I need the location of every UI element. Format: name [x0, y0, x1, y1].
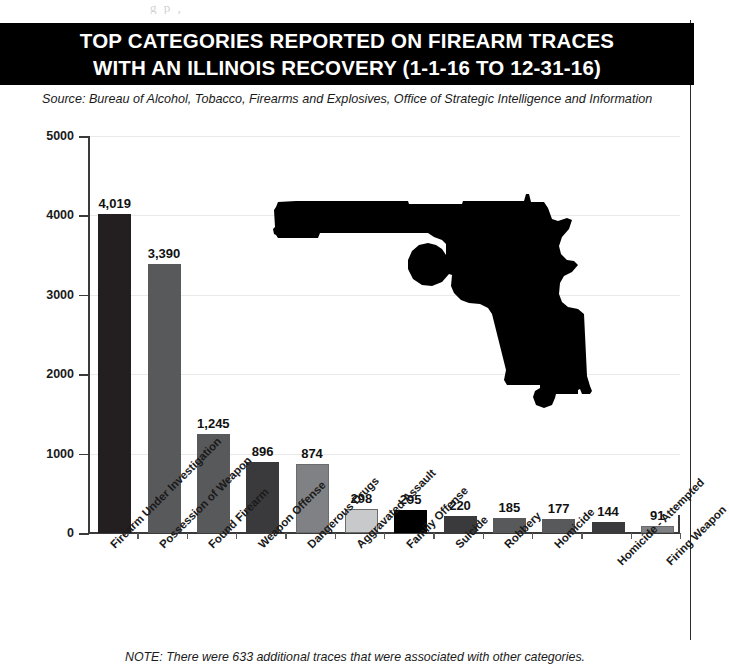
x-tick-mark [581, 533, 582, 539]
pistol-silhouette-icon [256, 190, 626, 412]
x-tick-mark [532, 533, 533, 539]
x-tick-mark [285, 533, 286, 539]
y-tick-label: 0 [67, 526, 74, 540]
x-tick-mark [483, 533, 484, 539]
y-tick-label: 4000 [46, 208, 74, 222]
footer-note: NOTE: There were 633 additional traces t… [0, 650, 710, 664]
x-tick-mark [187, 533, 188, 539]
y-tick-label: 1000 [46, 447, 74, 461]
bar-value-label: 896 [252, 444, 274, 459]
x-tick-mark [137, 533, 138, 539]
x-tick-mark [631, 533, 632, 539]
x-tick-mark [384, 533, 385, 539]
bar-value-label: 1,245 [197, 416, 230, 431]
bar-value-label: 177 [548, 501, 570, 516]
category-label: Homicide - Attempted [615, 476, 706, 567]
bar[interactable] [98, 214, 131, 533]
y-tick-label: 5000 [46, 129, 74, 143]
x-tick-mark [236, 533, 237, 539]
bar-value-label: 185 [498, 500, 520, 515]
x-tick-mark [335, 533, 336, 539]
x-axis-endcap [678, 515, 680, 534]
x-tick-mark [433, 533, 434, 539]
bar[interactable] [592, 522, 625, 533]
y-tick-label: 2000 [46, 367, 74, 381]
x-tick-mark [680, 533, 681, 539]
y-axis-line [88, 136, 90, 534]
bar-value-label: 4,019 [98, 196, 131, 211]
gridline [88, 136, 680, 137]
bar-value-label: 144 [597, 504, 619, 519]
y-tick-label: 3000 [46, 288, 74, 302]
gridline [88, 215, 680, 216]
bar-value-label: 3,390 [148, 246, 181, 261]
bar-value-label: 874 [301, 446, 323, 461]
